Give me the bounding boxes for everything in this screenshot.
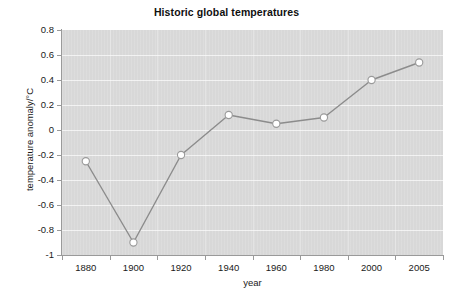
x-tick-mark (395, 256, 396, 260)
y-tick-label: -1 (46, 250, 54, 260)
y-tick-mark (57, 255, 61, 256)
x-tick-label: 1940 (205, 262, 253, 273)
y-tick-mark (57, 30, 61, 31)
y-tick-mark (57, 205, 61, 206)
y-tick-mark (57, 130, 61, 131)
y-tick-label: 0 (49, 125, 54, 135)
series-polyline (86, 63, 419, 243)
y-tick-label: 0.4 (41, 75, 54, 85)
data-point (82, 158, 89, 165)
data-point (273, 120, 280, 127)
x-tick-mark (253, 256, 254, 260)
y-tick-label: 0.2 (41, 100, 54, 110)
y-tick-mark (57, 55, 61, 56)
y-tick-label: 0.8 (41, 25, 54, 35)
y-tick-mark (57, 180, 61, 181)
x-tick-mark (300, 256, 301, 260)
y-tick-label: -0.8 (38, 225, 54, 235)
y-tick-mark (57, 230, 61, 231)
data-point (320, 114, 327, 121)
y-tick-label: -0.6 (38, 200, 54, 210)
x-tick-mark (110, 256, 111, 260)
chart-title: Historic global temperatures (0, 6, 453, 18)
x-tick-mark (348, 256, 349, 260)
data-series-line (62, 30, 443, 255)
x-tick-label: 1960 (252, 262, 300, 273)
x-axis-label: year (62, 277, 443, 288)
x-tick-label: 1880 (62, 262, 110, 273)
x-tick-label: 2000 (348, 262, 396, 273)
x-tick-label: 2005 (395, 262, 443, 273)
x-tick-label: 1900 (109, 262, 157, 273)
y-axis-label: temperature anomaly/°C (24, 60, 35, 220)
y-axis-line (61, 29, 62, 256)
data-point (416, 59, 423, 66)
x-tick-mark (62, 256, 63, 260)
y-tick-mark (57, 80, 61, 81)
y-tick-mark (57, 105, 61, 106)
x-tick-mark (157, 256, 158, 260)
y-tick-label: -0.4 (38, 175, 54, 185)
y-tick-label: 0.6 (41, 50, 54, 60)
data-point (225, 111, 232, 118)
x-tick-mark (443, 256, 444, 260)
x-tick-label: 1980 (300, 262, 348, 273)
plot-area (62, 30, 443, 255)
y-tick-mark (57, 155, 61, 156)
data-point (177, 151, 184, 158)
y-tick-label: -0.2 (38, 150, 54, 160)
chart-figure: Historic global temperatures 0.80.60.40.… (0, 0, 453, 301)
x-tick-label: 1920 (157, 262, 205, 273)
data-point (368, 76, 375, 83)
series-markers (82, 59, 423, 246)
data-point (130, 239, 137, 246)
x-tick-mark (205, 256, 206, 260)
